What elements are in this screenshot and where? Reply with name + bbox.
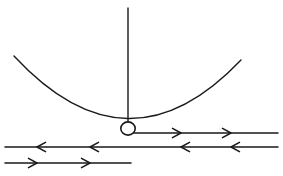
- diagram-root: [0, 0, 283, 176]
- pendulum-bob: [121, 122, 135, 135]
- pendulum-diagram-canvas: [0, 0, 283, 176]
